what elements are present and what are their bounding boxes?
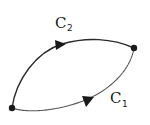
arrow-c1-icon: [82, 96, 94, 107]
start-point: [9, 105, 15, 111]
label-c2-sub: 2: [67, 23, 73, 33]
contour-diagram: C 2 C 1: [0, 0, 150, 125]
label-c1-sub: 1: [122, 99, 128, 109]
label-c1-main: C: [110, 89, 121, 107]
label-c1: C 1: [110, 89, 128, 109]
label-c2: C 2: [55, 14, 73, 33]
label-c2-main: C: [55, 14, 66, 32]
end-point: [131, 45, 137, 51]
arrow-c2-icon: [55, 40, 66, 50]
